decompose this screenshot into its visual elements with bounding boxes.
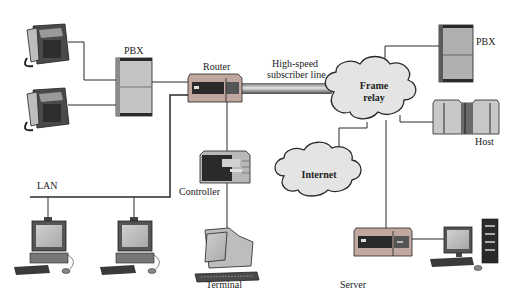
link-phone-top-pbx [68,42,118,80]
tower-workstation-icon [430,219,498,271]
pbx-cabinet-icon [439,25,473,82]
desktop-pc-icon [14,217,74,275]
frame-relay-label: Frame relay [352,80,396,104]
telephone-icon [25,88,69,130]
network-diagram [0,0,513,293]
internet-label: Internet [296,169,342,181]
server-icon [354,228,412,256]
pbx-right-label: PBX [476,36,495,47]
frame-relay-label-line1: Frame [352,80,396,92]
router-icon [188,74,242,102]
link-label-line1: High-speed [272,58,318,69]
telephone-icon [25,24,69,66]
desktop-pc-icon [100,217,160,275]
pbx-cabinet-icon [116,58,152,116]
pbx-left-label: PBX [124,45,143,56]
controller-label: Controller [179,186,220,197]
terminal-icon [195,228,259,282]
router-label: Router [203,61,230,72]
link-label-line2: subscriber line [267,69,326,80]
host-label: Host [475,136,494,147]
controller-box-icon [200,151,250,183]
terminal-label: Terminal [206,279,242,290]
frame-relay-label-line2: relay [352,92,396,104]
high-speed-pipe [240,83,332,94]
link-frame-internet [339,122,367,148]
server-label: Server [340,279,366,290]
lan-label: LAN [37,180,58,191]
mainframe-icon [433,100,499,134]
